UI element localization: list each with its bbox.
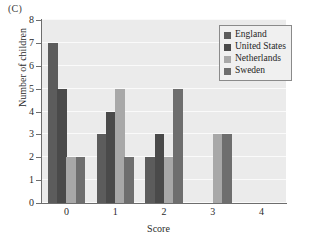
- x-tick-label: 2: [149, 206, 179, 217]
- legend-item: England: [224, 29, 286, 41]
- legend-item-label: Sweden: [235, 66, 265, 76]
- bar: [57, 89, 67, 203]
- legend-swatch-icon: [224, 44, 231, 51]
- y-tick-mark: [36, 203, 41, 204]
- bar: [145, 157, 155, 203]
- x-tick-label: 3: [198, 206, 228, 217]
- bar-chart-figure: (C) Number of children 012345678 01234 S…: [0, 0, 317, 247]
- x-axis-line: [41, 203, 287, 204]
- legend-item-label: United States: [235, 42, 286, 52]
- bar: [213, 134, 223, 203]
- legend-item: Netherlands: [224, 53, 286, 65]
- y-tick-label: 8: [0, 15, 34, 25]
- y-tick-label: 3: [0, 129, 34, 139]
- bar: [173, 89, 183, 203]
- legend-item-label: Netherlands: [235, 54, 281, 64]
- bar: [48, 43, 58, 203]
- y-tick-mark: [36, 89, 41, 90]
- y-tick-label: 1: [0, 175, 34, 185]
- y-tick-mark: [36, 43, 41, 44]
- x-tick-label: 4: [247, 206, 277, 217]
- bar: [164, 157, 174, 203]
- bar: [115, 89, 125, 203]
- x-tick-label: 0: [51, 206, 81, 217]
- legend: EnglandUnited StatesNetherlandsSweden: [219, 25, 292, 81]
- bar: [124, 157, 134, 203]
- y-tick-label: 4: [0, 107, 34, 117]
- legend-swatch-icon: [224, 32, 231, 39]
- bar: [76, 157, 86, 203]
- legend-item-label: England: [235, 30, 267, 40]
- y-tick-mark: [36, 180, 41, 181]
- x-tick-label: 1: [100, 206, 130, 217]
- y-tick-label: 0: [0, 198, 34, 208]
- legend-swatch-icon: [224, 56, 231, 63]
- x-axis-title: Score: [0, 223, 317, 234]
- bar: [155, 134, 165, 203]
- y-tick-mark: [36, 66, 41, 67]
- bar: [106, 112, 116, 204]
- bar: [66, 157, 76, 203]
- y-tick-mark: [36, 112, 41, 113]
- bar: [97, 134, 107, 203]
- y-tick-label: 5: [0, 84, 34, 94]
- legend-item: Sweden: [224, 65, 286, 77]
- y-tick-mark: [36, 134, 41, 135]
- y-tick-mark: [36, 157, 41, 158]
- bar: [222, 134, 232, 203]
- legend-item: United States: [224, 41, 286, 53]
- y-tick-label: 2: [0, 152, 34, 162]
- y-axis-line: [41, 19, 42, 204]
- y-tick-label: 6: [0, 61, 34, 71]
- y-tick-label: 7: [0, 38, 34, 48]
- legend-swatch-icon: [224, 68, 231, 75]
- y-tick-mark: [36, 20, 41, 21]
